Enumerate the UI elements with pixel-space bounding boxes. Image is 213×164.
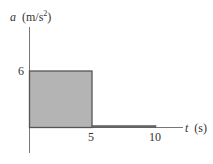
y-tick-6: 6 (18, 64, 24, 78)
x-tick-5: 5 (88, 130, 94, 144)
area-segment-5-10 (92, 126, 156, 128)
x-tick-10: 10 (149, 130, 161, 144)
y-axis-label: a (m/s2) (10, 9, 51, 24)
area-segment-0-5 (30, 71, 93, 128)
x-axis-label: t (s) (185, 121, 207, 135)
acceleration-time-graph: 6 5 10 a (m/s2) t (s) (0, 0, 213, 164)
